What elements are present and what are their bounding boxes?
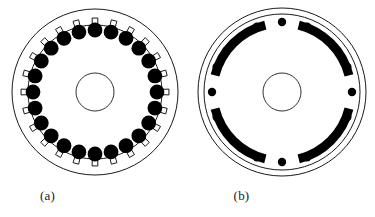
rotor-dot	[278, 18, 286, 26]
rotor-dot	[348, 88, 356, 96]
rotor-dot	[212, 63, 220, 71]
stator-conductor-dot	[72, 144, 87, 159]
rotor-outer-circle	[198, 8, 366, 176]
rotor-dot	[208, 88, 216, 96]
stator-conductor-dot	[150, 85, 165, 100]
figure-panel-a: (a)	[0, 0, 187, 217]
stator-shaft-circle	[76, 73, 114, 111]
rotor-dot	[343, 113, 351, 121]
figure-panel-b: (b)	[188, 0, 375, 217]
stator-conductor-dot	[104, 25, 119, 40]
figure-root: (a) (b)	[0, 0, 375, 217]
rotor-shaft-circle	[263, 73, 301, 111]
stator-slotted-bore	[21, 18, 169, 166]
stator-conductor-dot	[44, 41, 59, 56]
stator-conductor-dot	[119, 31, 134, 46]
stator-conductor-dot	[119, 138, 134, 153]
stator-conductor-dot	[44, 128, 59, 143]
rotor-dot	[278, 158, 286, 166]
stator-conductor-dot	[34, 116, 49, 131]
stator-conductor-dot	[147, 69, 162, 84]
stator-conductor-dot	[28, 69, 43, 84]
rotor-dot	[253, 22, 261, 30]
stator-conductor-dot	[57, 138, 72, 153]
rotor-diagram	[188, 0, 375, 190]
caption-b: (b)	[148, 188, 335, 204]
rotor-dot	[212, 113, 220, 121]
stator-conductor-dot	[141, 116, 156, 131]
rotor-inner-rim-circle	[204, 14, 360, 170]
stator-conductor-dot	[72, 25, 87, 40]
stator-conductor-dot	[131, 41, 146, 56]
rotor-dot	[303, 22, 311, 30]
stator-conductor-dot	[26, 85, 41, 100]
stator-conductor-dot	[104, 144, 119, 159]
stator-conductor-dot	[88, 23, 103, 38]
stator-conductor-dot	[28, 101, 43, 116]
stator-conductor-group	[26, 23, 165, 162]
stator-conductor-dot	[141, 54, 156, 69]
rotor-magnet-group	[215, 25, 349, 159]
stator-conductor-dot	[88, 147, 103, 162]
stator-diagram	[0, 0, 187, 190]
stator-conductor-dot	[34, 54, 49, 69]
stator-conductor-dot	[147, 101, 162, 116]
stator-conductor-dot	[57, 31, 72, 46]
rotor-dot	[343, 63, 351, 71]
stator-conductor-dot	[131, 128, 146, 143]
rotor-dot	[303, 153, 311, 161]
caption-a: (a)	[0, 188, 141, 204]
rotor-dot	[253, 153, 261, 161]
